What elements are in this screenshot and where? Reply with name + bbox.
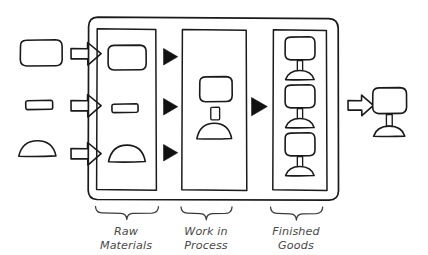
finished-goods-label-line2: Goods [278,239,314,252]
finished-product-body [285,133,315,156]
finished-product-base [286,70,315,79]
shipped-product-body [373,88,407,114]
wip-assembly-stem [211,107,220,120]
input-part-rounded-rectangle [20,40,62,66]
block-arrow-right-icon [348,95,373,116]
flow-diagram-canvas: Raw Materials Work in Process Finished G… [0,0,428,255]
output-group [348,88,407,137]
raw-material-item-stem [112,104,138,113]
finished-goods-label-line1: Finished [272,225,320,238]
finished-goods-brace [271,207,323,220]
finished-product-stem [297,61,302,71]
shipped-product-stem [386,114,392,126]
raw-material-item-base [109,145,146,162]
raw-materials-label-line1: Raw [114,225,139,238]
wip-assembly-body [200,77,233,102]
finished-product-base [286,118,315,127]
work-in-process-label-line1: Work in [184,225,227,238]
inventory-flow-diagram: Raw Materials Work in Process Finished G… [0,0,428,255]
input-part-dome [19,141,56,157]
solid-triangle-right-icon [164,99,178,116]
solid-triangle-right-icon [164,145,178,162]
wip-assembly-base [197,123,232,139]
raw-materials-brace [96,207,159,220]
raw-material-item-body [108,45,146,70]
solid-triangle-right-icon [164,49,178,66]
finished-product-body [285,37,315,60]
finished-product-body [285,85,315,108]
transfer-arrows-raw-to-wip [164,49,178,162]
finished-product-stem [297,109,302,119]
solid-triangle-right-icon [252,98,268,116]
transfer-arrow-wip-to-finished [252,98,268,116]
work-in-process-brace [181,207,232,220]
work-in-process-label-line2: Process [184,239,228,252]
input-part-small-bar [26,100,53,109]
shipped-product-base [374,126,405,136]
finished-product-item [285,37,315,80]
stage-finished-goods [273,30,327,191]
raw-materials-label-line2: Materials [100,239,152,252]
stage-work-in-process [182,29,247,190]
finished-product-base [286,166,315,175]
shipped-product [373,88,407,137]
stage-raw-materials [97,29,157,190]
rounded-rectangle-part-icon [20,40,62,66]
dome-part-icon [19,141,56,157]
finished-product-item [285,85,315,128]
stage-labels-group: Raw Materials Work in Process Finished G… [96,207,323,253]
small-bar-part-icon [26,100,53,109]
finished-product-item [285,133,315,176]
finished-product-stem [297,157,302,167]
